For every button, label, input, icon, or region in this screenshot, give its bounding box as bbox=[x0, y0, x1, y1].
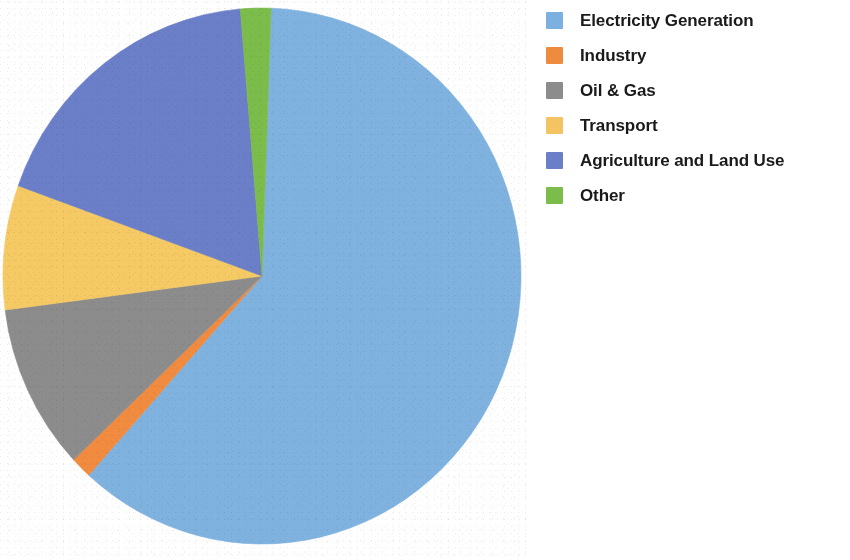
legend-item-oil-gas[interactable]: Oil & Gas bbox=[546, 73, 846, 108]
legend-item-industry[interactable]: Industry bbox=[546, 38, 846, 73]
legend-swatch-agriculture-and-land-use bbox=[546, 152, 563, 169]
legend-swatch-other bbox=[546, 187, 563, 204]
legend-swatch-electricity-generation bbox=[546, 12, 563, 29]
legend-item-label: Agriculture and Land Use bbox=[580, 152, 784, 169]
legend-item-label: Oil & Gas bbox=[580, 82, 656, 99]
legend-item-label: Electricity Generation bbox=[580, 12, 754, 29]
legend-item-label: Transport bbox=[580, 117, 658, 134]
legend-item-transport[interactable]: Transport bbox=[546, 108, 846, 143]
legend-item-agriculture-and-land-use[interactable]: Agriculture and Land Use bbox=[546, 143, 846, 178]
legend-swatch-oil-and-gas bbox=[546, 82, 563, 99]
legend-item-label: Other bbox=[580, 187, 625, 204]
pie-chart-plot-area bbox=[0, 0, 530, 560]
legend-item-electricity-generation[interactable]: Electricity Generation bbox=[546, 3, 846, 38]
legend-item-other[interactable]: Other bbox=[546, 178, 846, 213]
legend-swatch-industry bbox=[546, 47, 563, 64]
pie-chart-svg bbox=[0, 0, 530, 560]
pie-slice-group bbox=[3, 8, 521, 544]
legend-item-label: Industry bbox=[580, 47, 646, 64]
pie-chart-figure: Electricity GenerationIndustryOil & GasT… bbox=[0, 0, 850, 560]
legend-swatch-transport bbox=[546, 117, 563, 134]
chart-legend: Electricity GenerationIndustryOil & GasT… bbox=[546, 3, 846, 213]
